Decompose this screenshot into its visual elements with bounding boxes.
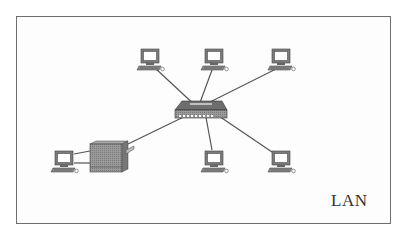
switch-icon [175,101,227,118]
computer-icon [268,49,295,71]
computer-icon [201,49,228,71]
computer-icon [201,151,228,173]
printer-icon [90,141,134,172]
lan-label: LAN [331,191,367,211]
computer-icon [268,151,295,173]
computer-icon [137,49,164,71]
